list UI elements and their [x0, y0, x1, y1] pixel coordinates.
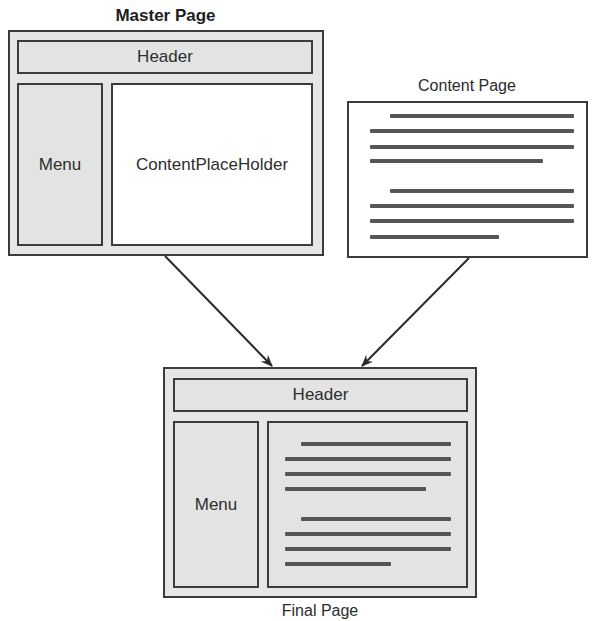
final-text-line	[285, 457, 451, 461]
final-text-line	[285, 532, 451, 536]
arrow-content-to-final	[362, 258, 469, 366]
final-text-line	[285, 547, 451, 551]
final-text-line	[301, 517, 451, 521]
final-menu-panel: Menu	[173, 421, 259, 588]
arrow-master-to-final	[165, 256, 272, 366]
final-text-line	[285, 472, 451, 476]
final-header-panel: Header	[173, 378, 468, 412]
final-menu-label: Menu	[195, 495, 238, 515]
final-text-line	[285, 562, 391, 566]
final-text-line	[285, 487, 426, 491]
final-text-line	[301, 442, 451, 446]
final-header-label: Header	[293, 385, 349, 405]
final-page-title: Final Page	[163, 601, 477, 621]
